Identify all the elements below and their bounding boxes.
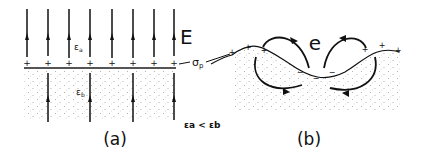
svg-text:+: + — [108, 58, 116, 68]
svg-text:−: − — [297, 68, 304, 77]
sigma-leader-line — [179, 62, 190, 64]
svg-text:+: + — [379, 41, 386, 50]
svg-text:+: + — [150, 58, 158, 68]
dielectric-b-region — [24, 70, 176, 120]
field-label-E: E — [180, 25, 193, 49]
svg-text:+: + — [362, 45, 369, 54]
svg-text:+: + — [229, 48, 236, 57]
svg-text:+: + — [129, 58, 137, 68]
panel-a: + + + + + + + + E εa εb σp εa < εb (a) — [23, 9, 230, 149]
svg-text:+: + — [86, 58, 94, 68]
svg-text:+: + — [44, 58, 52, 68]
diagram-canvas: + + + + + + + + E εa εb σp εa < εb (a) — [0, 0, 422, 158]
field-label-e: e — [309, 31, 321, 55]
svg-text:+: + — [261, 46, 268, 55]
caption-a: (a) — [103, 129, 127, 149]
upper-field-lines — [27, 9, 174, 58]
permittivity-condition: εa < εb — [184, 120, 221, 130]
surface-charge-label: σp — [192, 56, 204, 70]
svg-text:−: − — [313, 74, 320, 83]
epsilon-a-label: εa — [74, 42, 83, 53]
svg-text:+: + — [23, 58, 31, 68]
svg-text:+: + — [65, 58, 73, 68]
svg-text:+: + — [170, 58, 178, 68]
panel-b: e + + + + + + − − − (b) — [211, 31, 401, 149]
svg-text:+: + — [395, 46, 402, 55]
svg-text:−: − — [329, 68, 336, 77]
positive-charges-a: + + + + + + + + — [23, 58, 178, 68]
svg-text:+: + — [245, 43, 252, 52]
caption-b: (b) — [297, 129, 321, 149]
